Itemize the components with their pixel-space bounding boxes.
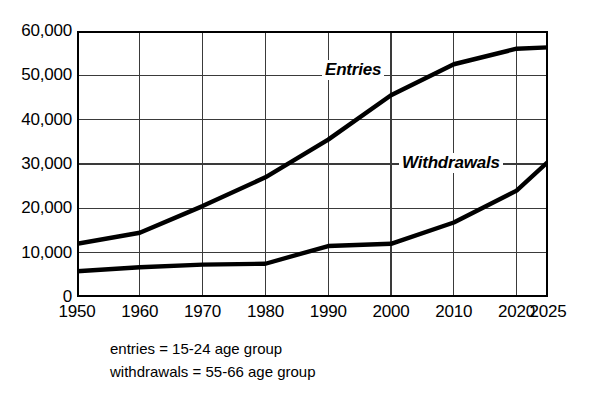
x-axis: 195019601970198019902000201020202025	[0, 303, 590, 331]
legend-note-entries: entries = 15-24 age group	[110, 337, 530, 360]
legend-note-withdrawals: withdrawals = 55-66 age group	[110, 360, 530, 383]
y-axis: 010,00020,00030,00040,00050,00060,000	[0, 0, 72, 395]
chart-page: 010,00020,00030,00040,00050,00060,000 En…	[0, 0, 590, 395]
x-tick-label: 1990	[310, 303, 347, 320]
series-label-entries: Entries	[322, 60, 384, 80]
y-tick-label: 60,000	[21, 22, 72, 39]
series-label-withdrawals: Withdrawals	[399, 153, 503, 173]
x-tick-label: 1950	[58, 303, 95, 320]
x-tick-label: 2000	[372, 303, 409, 320]
y-tick-label: 50,000	[21, 66, 72, 83]
x-tick-label: 2025	[529, 303, 566, 320]
x-tick-label: 2010	[435, 303, 472, 320]
x-tick-label: 1980	[247, 303, 284, 320]
y-tick-label: 10,000	[21, 244, 72, 261]
x-tick-label: 1960	[121, 303, 158, 320]
x-tick-label: 1970	[184, 303, 221, 320]
y-tick-label: 20,000	[21, 199, 72, 216]
legend-notes: entries = 15-24 age group withdrawals = …	[110, 337, 530, 384]
y-tick-label: 30,000	[21, 155, 72, 172]
y-tick-label: 40,000	[21, 111, 72, 128]
